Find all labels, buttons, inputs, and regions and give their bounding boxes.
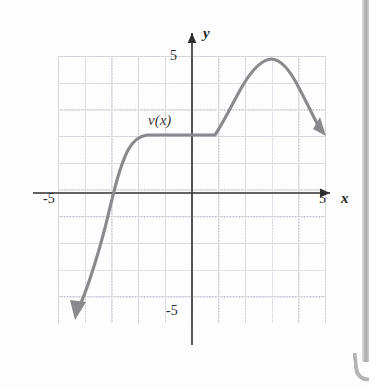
x-tick-label-minus-5: -5	[43, 191, 55, 207]
x-tick-label-5: 5	[319, 191, 326, 207]
function-label-vx: v(x)	[148, 112, 171, 129]
y-axis-arrowhead	[188, 33, 197, 43]
x-axis-label: x	[341, 190, 349, 207]
y-tick-label-5: 5	[170, 48, 177, 64]
figure-page: 5 -5 -5 5 y x v(x)	[0, 0, 384, 387]
y-tick-label-minus-5: -5	[166, 303, 178, 319]
y-axis-label: y	[203, 25, 210, 42]
page-margin-fill	[369, 0, 384, 387]
x-axis	[33, 189, 330, 198]
graph-plot-area: 5 -5 -5 5 y x v(x)	[0, 0, 384, 387]
curve-left-arrowhead	[70, 300, 86, 320]
y-axis	[188, 33, 197, 345]
scanned-page-edge	[362, 0, 369, 362]
function-curve-vx	[70, 59, 326, 320]
graph-svg	[0, 0, 384, 387]
